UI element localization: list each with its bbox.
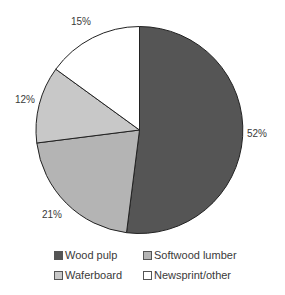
legend-label-newsprint-other: Newsprint/other [154,269,231,282]
legend-swatch-waferboard [54,271,63,280]
legend-item-newsprint-other: Newsprint/other [143,269,231,282]
legend-item-softwood-lumber: Softwood lumber [143,249,237,262]
legend-label-waferboard: Waferboard [65,269,122,282]
slice-wood-pulp [127,27,243,234]
legend-swatch-softwood-lumber [143,251,152,260]
label-waferboard-pct: 12% [15,94,35,106]
legend-item-waferboard: Waferboard [54,269,122,282]
legend-swatch-wood-pulp [54,251,63,260]
label-softwood-pct: 21% [42,209,62,221]
legend-swatch-newsprint-other [143,271,152,280]
label-wood-pulp-pct: 52% [247,128,267,140]
legend-item-wood-pulp: Wood pulp [54,249,117,262]
legend-label-softwood-lumber: Softwood lumber [154,249,237,262]
legend-label-wood-pulp: Wood pulp [65,249,117,262]
label-newsprint-pct: 15% [71,16,91,28]
